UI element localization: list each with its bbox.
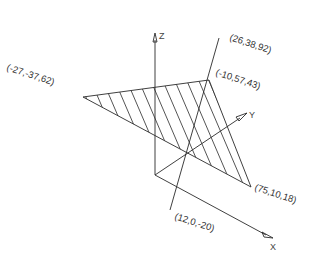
vertex-label-b: (-10,57,43) bbox=[214, 66, 262, 91]
vertex-label-a: (-27,-37,62) bbox=[5, 61, 56, 87]
intersecting-line bbox=[170, 38, 219, 210]
z-axis: Z bbox=[153, 31, 165, 175]
diagram-canvas: Z Y X (-27,-37,62) bbox=[0, 0, 322, 264]
y-axis-label: Y bbox=[249, 110, 255, 120]
line-endpoint-label-top: (26,38,92) bbox=[228, 31, 273, 55]
z-axis-label: Z bbox=[159, 31, 165, 41]
y-axis-arrow-icon bbox=[236, 113, 247, 121]
y-axis: Y bbox=[155, 110, 255, 175]
x-axis-label: X bbox=[270, 242, 276, 252]
vertex-label-c: (75,10,18) bbox=[253, 181, 298, 205]
x-axis-arrow-icon bbox=[262, 232, 273, 238]
line-endpoint-label-bottom: (12,0,-20) bbox=[173, 210, 216, 233]
